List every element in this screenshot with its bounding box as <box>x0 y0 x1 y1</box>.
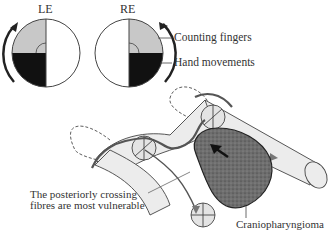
le-label: LE <box>38 3 53 15</box>
re-visual-field <box>95 19 163 87</box>
counting-fingers-label: Counting fingers <box>174 32 252 44</box>
cross-section-top <box>201 105 225 129</box>
posterior-fibres-label-line2: fibres are most vulnerable <box>30 200 145 211</box>
craniopharyngioma-label: Craniopharyngioma <box>236 219 324 230</box>
re-label: RE <box>120 3 135 15</box>
le-visual-field <box>12 19 80 87</box>
hand-movements-label: Hand movements <box>174 57 255 69</box>
